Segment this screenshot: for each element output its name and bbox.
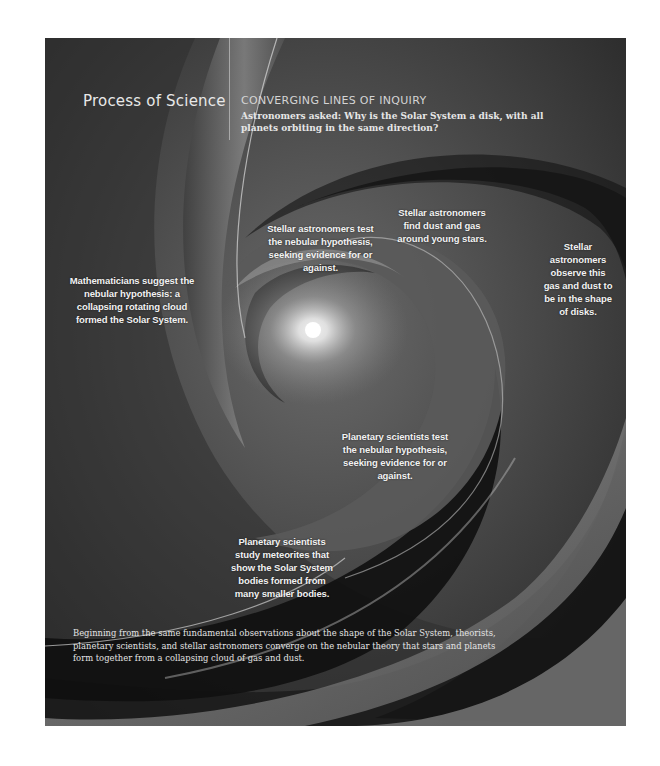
- callout-stellar-find: Stellar astronomers find dust and gas ar…: [392, 206, 492, 245]
- header-divider: [229, 38, 230, 140]
- spiral-background: [45, 38, 626, 726]
- callout-planetary-meteorites: Planetary scientists study meteorites th…: [227, 535, 337, 600]
- subtitle: CONVERGING LINES OF INQUIRY: [241, 94, 426, 107]
- summary-text: Beginning from the same fundamental obse…: [73, 627, 513, 665]
- callout-planetary-test: Planetary scientists test the nebular hy…: [340, 430, 450, 482]
- callout-mathematicians: Mathematicians suggest the nebular hypot…: [67, 274, 197, 326]
- guiding-question: Astronomers asked: Why is the Solar Syst…: [241, 110, 561, 134]
- page-title: Process of Science: [83, 92, 226, 110]
- diagram-panel: Process of Science CONVERGING LINES OF I…: [45, 38, 626, 726]
- central-star-icon: [305, 322, 321, 338]
- callout-stellar-observe: Stellar astronomers observe this gas and…: [542, 240, 614, 318]
- callout-stellar-test: Stellar astronomers test the nebular hyp…: [263, 222, 378, 274]
